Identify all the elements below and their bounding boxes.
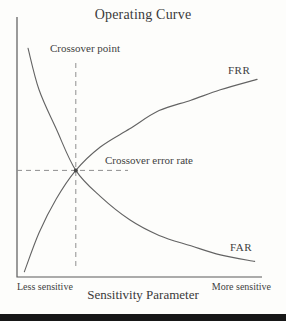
bottom-rule — [0, 314, 286, 321]
frr-curve-label: FRR — [228, 64, 250, 76]
crossover-point-label: Crossover point — [50, 42, 120, 54]
far-curve-label: FAR — [230, 241, 252, 253]
crossover-dot — [74, 168, 78, 172]
frr-curve — [24, 79, 257, 271]
crossover-error-rate-label: Crossover error rate — [105, 154, 193, 166]
operating-curve-figure: Operating Curve Crossover point FRR Cros… — [0, 0, 286, 314]
x-axis-title: Sensitivity Parameter — [0, 287, 286, 303]
axes — [17, 17, 262, 277]
